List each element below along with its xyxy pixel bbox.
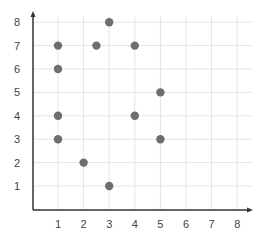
x-tick-labels: 12345678 — [55, 218, 240, 230]
axes — [31, 11, 254, 213]
y-tick-label: 6 — [14, 63, 20, 75]
x-tick-label: 1 — [55, 218, 61, 230]
y-tick-label: 4 — [14, 110, 20, 122]
data-point — [54, 41, 62, 49]
x-tick-label: 2 — [81, 218, 87, 230]
data-point — [131, 112, 139, 120]
data-point — [54, 135, 62, 143]
data-point — [54, 65, 62, 73]
data-point — [131, 41, 139, 49]
y-tick-labels: 12345678 — [14, 16, 20, 192]
y-tick-label: 3 — [14, 133, 20, 145]
grid-lines — [33, 16, 252, 210]
x-tick-label: 5 — [157, 218, 163, 230]
data-point — [92, 41, 100, 49]
x-tick-label: 4 — [132, 218, 138, 230]
data-point — [105, 182, 113, 190]
data-point — [156, 88, 164, 96]
x-tick-label: 3 — [106, 218, 112, 230]
y-tick-label: 1 — [14, 180, 20, 192]
data-point — [105, 18, 113, 26]
y-tick-label: 7 — [14, 40, 20, 52]
y-axis-arrow-icon — [31, 11, 36, 17]
scatter-chart: 12345678 12345678 — [0, 0, 271, 240]
data-point — [156, 135, 164, 143]
data-point — [54, 112, 62, 120]
x-tick-label: 7 — [209, 218, 215, 230]
x-tick-label: 6 — [183, 218, 189, 230]
y-tick-label: 2 — [14, 157, 20, 169]
y-tick-label: 8 — [14, 16, 20, 28]
x-tick-label: 8 — [234, 218, 240, 230]
y-tick-label: 5 — [14, 86, 20, 98]
x-axis-arrow-icon — [247, 208, 253, 213]
data-point — [79, 158, 87, 166]
